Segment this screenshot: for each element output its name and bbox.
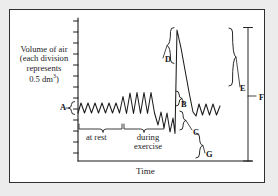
callout-label-g: G [206,150,213,159]
callout-label-f: F [259,93,264,102]
plot-frame [9,9,265,183]
spirometer-figure: Volume of air (each division represents … [0,0,278,196]
callout-label-b: B [181,100,187,109]
phase-label-at-rest: at rest [86,133,107,142]
y-axis-title: Volume of air (each division represents … [13,45,75,84]
phase-label-during-exercise: during exercise [126,133,170,152]
callout-label-d: D [165,55,171,64]
callout-label-c: C [193,128,199,137]
x-axis-title: Time [136,167,155,177]
callout-label-a: A [60,103,66,112]
y-axis-title-line4-pre: 0.5 dm [29,74,53,84]
y-axis-title-line3: represents [27,63,62,73]
y-axis-title-line4-post: ) [56,74,59,84]
callout-label-e: E [240,84,246,93]
